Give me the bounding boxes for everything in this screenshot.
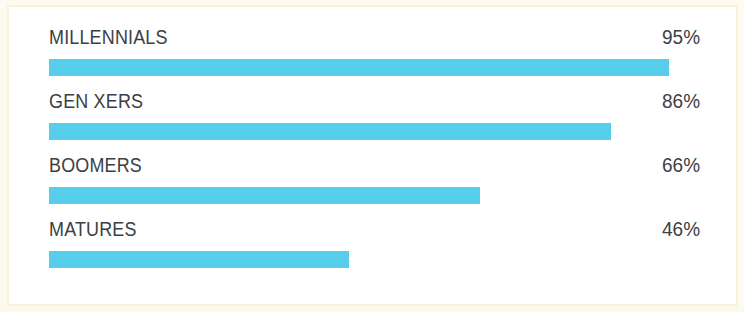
bar-row-header: GEN XERS 86% <box>49 90 700 117</box>
paper-edge-left <box>0 0 7 312</box>
bar-fill <box>49 187 480 204</box>
bar-category-label: GEN XERS <box>49 90 143 112</box>
bar-track <box>49 251 700 268</box>
chart-plot-area: MILLENNIALS 95% GEN XERS 86% BOOMERS 66% <box>49 26 700 288</box>
bar-track <box>49 123 700 140</box>
bar-track <box>49 187 700 204</box>
bar-row: GEN XERS 86% <box>49 90 700 145</box>
bar-category-label: MATURES <box>49 218 137 240</box>
bar-row: MILLENNIALS 95% <box>49 26 700 81</box>
bar-fill <box>49 59 669 76</box>
horizontal-bar-chart: MILLENNIALS 95% GEN XERS 86% BOOMERS 66% <box>0 0 744 312</box>
bar-value-label: 66% <box>662 154 700 176</box>
bar-fill <box>49 251 349 268</box>
bar-value-label: 95% <box>662 26 700 48</box>
paper-edge-right <box>738 0 744 312</box>
bar-category-label: MILLENNIALS <box>49 26 168 48</box>
bar-row: MATURES 46% <box>49 218 700 273</box>
bar-track <box>49 59 700 76</box>
bar-value-label: 86% <box>662 90 700 112</box>
bar-row-header: MATURES 46% <box>49 218 700 245</box>
bar-fill <box>49 123 611 140</box>
bar-row-header: MILLENNIALS 95% <box>49 26 700 53</box>
bar-row-header: BOOMERS 66% <box>49 154 700 181</box>
bar-category-label: BOOMERS <box>49 154 142 176</box>
paper-edge-bottom <box>0 306 744 312</box>
bar-row: BOOMERS 66% <box>49 154 700 209</box>
bar-value-label: 46% <box>662 218 700 240</box>
